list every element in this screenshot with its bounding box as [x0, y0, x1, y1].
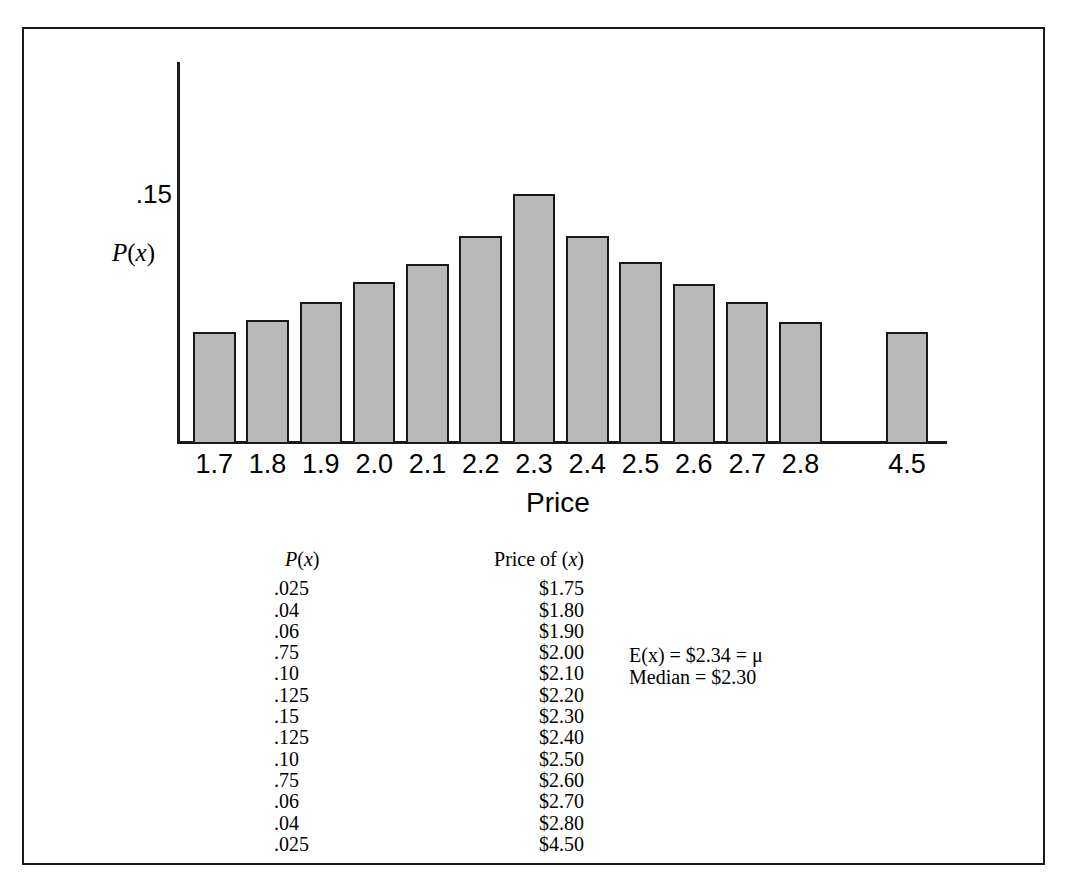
table-row: .06$2.70 [274, 791, 584, 812]
table-cell-price: $2.80 [454, 813, 584, 834]
table-row: .10$2.50 [274, 749, 584, 770]
table-cell-price: $1.75 [454, 578, 584, 599]
table-cell-price: $2.30 [454, 706, 584, 727]
table-row: .04$1.80 [274, 600, 584, 621]
bar-2.2 [459, 236, 502, 444]
x-axis-title: Price [24, 487, 1047, 519]
table-row: .04$2.80 [274, 813, 584, 834]
table-cell-price: $2.20 [454, 685, 584, 706]
table-row: .025$4.50 [274, 834, 584, 855]
probability-table: P(x) Price of (x) .025$1.75.04$1.80.06$1… [274, 549, 584, 855]
y-axis-title: P(x) [112, 239, 155, 267]
bar-2.5 [619, 262, 662, 444]
figure-frame: .15 P(x) Price 1.71.81.92.02.12.22.32.42… [22, 27, 1045, 865]
table-header-price: Price of (x) [439, 549, 584, 570]
table-row: .75$2.60 [274, 770, 584, 791]
median-line: Median = $2.30 [629, 666, 763, 688]
bar-2.4 [566, 236, 609, 444]
table-cell-probability: .04 [274, 813, 394, 834]
bar-1.8 [246, 320, 289, 444]
summary-statistics: E(x) = $2.34 = μ Median = $2.30 [629, 644, 763, 688]
table-header-probability: P(x) [274, 549, 405, 570]
table-cell-probability: .025 [274, 578, 394, 599]
table-cell-probability: .15 [274, 706, 394, 727]
table-cell-probability: .10 [274, 663, 394, 684]
table-row: .06$1.90 [274, 621, 584, 642]
bar-2.0 [353, 282, 396, 444]
table-cell-price: $2.10 [454, 663, 584, 684]
table-cell-price: $2.60 [454, 770, 584, 791]
expected-value-line: E(x) = $2.34 = μ [629, 644, 763, 666]
x-tick-label-2.8: 2.8 [760, 449, 840, 480]
bar-1.9 [300, 302, 343, 444]
table-cell-probability: .06 [274, 791, 394, 812]
bars-container [177, 62, 947, 444]
bar-4.5 [886, 332, 929, 444]
table-cell-probability: .06 [274, 621, 394, 642]
table-row: .125$2.40 [274, 727, 584, 748]
table-row: .75$2.00 [274, 642, 584, 663]
y-axis-tick-label: .15 [124, 179, 172, 210]
table-cell-price: $2.00 [454, 642, 584, 663]
bar-2.1 [406, 264, 449, 444]
table-cell-price: $1.90 [454, 621, 584, 642]
x-tick-label-4.5: 4.5 [867, 449, 947, 480]
bar-chart: .15 P(x) Price 1.71.81.92.02.12.22.32.42… [24, 29, 1047, 529]
bar-1.7 [193, 332, 236, 444]
table-cell-probability: .04 [274, 600, 394, 621]
table-cell-probability: .10 [274, 749, 394, 770]
table-cell-price: $1.80 [454, 600, 584, 621]
table-cell-price: $4.50 [454, 834, 584, 855]
bar-2.3 [513, 194, 556, 444]
bar-2.8 [779, 322, 822, 444]
table-header-row: P(x) Price of (x) [274, 549, 584, 570]
table-row: .15$2.30 [274, 706, 584, 727]
table-cell-probability: .75 [274, 642, 394, 663]
table-cell-price: $2.40 [454, 727, 584, 748]
bar-2.6 [673, 284, 716, 444]
table-row: .125$2.20 [274, 685, 584, 706]
table-cell-probability: .75 [274, 770, 394, 791]
table-row: .025$1.75 [274, 578, 584, 599]
table-cell-price: $2.70 [454, 791, 584, 812]
table-body: .025$1.75.04$1.80.06$1.90.75$2.00.10$2.1… [274, 578, 584, 855]
table-cell-probability: .125 [274, 685, 394, 706]
table-row: .10$2.10 [274, 663, 584, 684]
table-cell-probability: .125 [274, 727, 394, 748]
bar-2.7 [726, 302, 769, 444]
table-cell-probability: .025 [274, 834, 394, 855]
table-cell-price: $2.50 [454, 749, 584, 770]
